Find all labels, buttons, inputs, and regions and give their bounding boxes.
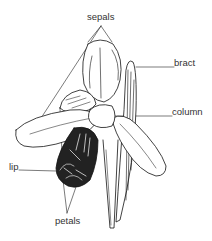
label-lip: lip xyxy=(9,162,19,172)
label-sepals: sepals xyxy=(87,12,114,22)
orchid-diagram xyxy=(0,0,212,241)
label-column: column xyxy=(172,107,203,117)
label-petals: petals xyxy=(55,216,80,226)
stem xyxy=(103,140,118,228)
label-bract: bract xyxy=(174,58,195,68)
column xyxy=(88,105,115,128)
